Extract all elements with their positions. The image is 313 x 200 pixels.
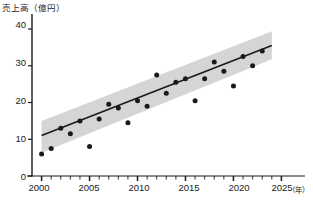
data-point: [106, 102, 111, 107]
data-point: [135, 98, 140, 103]
data-point: [97, 117, 102, 122]
data-point: [49, 146, 54, 151]
data-point: [231, 83, 236, 88]
confidence-band: [42, 31, 272, 153]
data-point: [68, 131, 73, 136]
data-point: [250, 63, 255, 68]
data-point: [154, 72, 159, 77]
data-point: [202, 76, 207, 81]
data-point: [145, 104, 150, 109]
data-point: [173, 80, 178, 85]
data-point: [116, 106, 121, 111]
data-point: [241, 54, 246, 59]
confidence-band-group: [42, 31, 272, 153]
data-point: [77, 118, 82, 123]
data-point: [260, 49, 265, 54]
data-point: [87, 144, 92, 149]
data-point: [39, 151, 44, 156]
trend-line-group: [42, 46, 272, 136]
regression-line: [42, 46, 272, 136]
scatter-plot-svg: [0, 0, 313, 200]
data-point: [125, 120, 130, 125]
data-point: [221, 69, 226, 74]
data-point: [193, 98, 198, 103]
data-point: [58, 126, 63, 131]
chart-container: 売上高（億円） 40 30 20 10 0 2000 2005 2010 201…: [0, 0, 313, 200]
data-point: [212, 60, 217, 65]
data-point: [164, 91, 169, 96]
data-point: [183, 76, 188, 81]
